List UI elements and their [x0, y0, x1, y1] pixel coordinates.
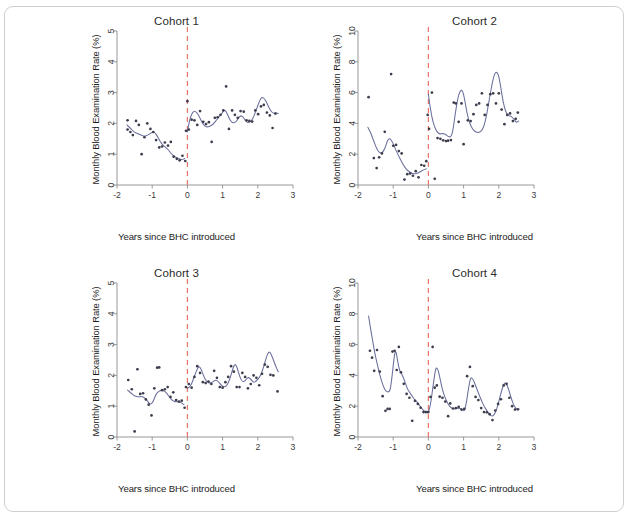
data-point — [214, 117, 217, 120]
data-point — [224, 381, 227, 384]
data-point — [483, 114, 486, 117]
data-point — [233, 370, 236, 373]
data-point — [166, 386, 169, 389]
x-tick-label: -1 — [389, 442, 397, 452]
data-point — [397, 346, 400, 349]
data-point — [460, 102, 463, 105]
data-point — [371, 356, 374, 359]
data-point — [219, 113, 222, 116]
data-point — [486, 104, 489, 107]
data-point — [225, 85, 228, 88]
data-point — [390, 73, 393, 76]
y-tick-label: 4 — [106, 59, 116, 64]
data-point — [180, 399, 183, 402]
x-axis-label-cohort-4: Years since BHC introduced — [354, 483, 595, 494]
data-point — [272, 374, 275, 377]
data-point — [412, 174, 415, 177]
data-point — [419, 406, 422, 409]
data-point — [185, 386, 188, 389]
data-point — [150, 414, 153, 417]
y-tick-label: 0 — [106, 434, 116, 439]
data-point — [429, 396, 432, 399]
data-point — [378, 156, 381, 159]
x-tick-label: -2 — [113, 190, 121, 200]
x-tick-label: 2 — [496, 442, 501, 452]
data-point — [252, 374, 255, 377]
panel-cohort-1: Cohort 1 Monthly Blood Examination Rate … — [5, 7, 314, 259]
data-point — [478, 102, 481, 105]
data-point — [491, 419, 494, 422]
panel-cohort-3: Cohort 3 Monthly Blood Examination Rate … — [5, 259, 314, 511]
y-tick-label: 2 — [347, 404, 357, 409]
data-point — [508, 396, 511, 399]
data-point — [242, 110, 245, 113]
data-point — [441, 396, 444, 399]
data-point — [236, 117, 239, 120]
data-point — [196, 124, 199, 127]
data-point — [416, 403, 419, 406]
data-point — [450, 139, 453, 142]
data-point — [514, 408, 517, 411]
data-point — [207, 380, 210, 383]
y-tick-label: 2 — [106, 121, 116, 126]
data-point — [167, 144, 170, 147]
data-point — [376, 349, 379, 352]
data-point — [503, 123, 506, 126]
y-tick-label: 2 — [106, 373, 116, 378]
y-tick-label: 4 — [347, 373, 357, 378]
data-point — [216, 377, 219, 380]
data-point — [178, 400, 181, 403]
x-tick-label: -1 — [148, 442, 156, 452]
data-point — [169, 396, 172, 399]
data-point — [161, 389, 164, 392]
x-tick-label: 0 — [185, 190, 190, 200]
x-tick-label: 1 — [220, 190, 225, 200]
data-point — [455, 407, 458, 410]
data-point — [230, 365, 233, 368]
data-point — [129, 131, 132, 134]
data-point — [262, 104, 265, 107]
y-tick-label: 1 — [106, 404, 116, 409]
data-point — [395, 369, 398, 372]
data-point — [457, 121, 460, 124]
data-point — [509, 112, 512, 115]
data-point — [426, 114, 429, 117]
data-point — [439, 137, 442, 140]
data-point — [471, 385, 474, 388]
data-point — [500, 398, 503, 401]
data-point — [161, 145, 164, 148]
data-point — [164, 388, 167, 391]
data-point — [231, 109, 234, 112]
data-point — [234, 113, 237, 116]
fit-line-post — [428, 368, 519, 416]
data-point — [149, 128, 152, 131]
fit-line-pre — [128, 390, 184, 404]
data-point — [511, 405, 514, 408]
data-point — [210, 383, 213, 386]
data-point — [266, 111, 269, 114]
data-point — [489, 93, 492, 96]
data-point — [131, 134, 134, 137]
x-tick-label: 2 — [255, 442, 260, 452]
data-point — [480, 407, 483, 410]
data-point — [137, 124, 140, 127]
data-point — [400, 152, 403, 155]
data-point — [449, 402, 452, 405]
data-point — [433, 386, 436, 389]
data-point — [375, 167, 378, 170]
x-tick-label: 0 — [185, 442, 190, 452]
data-point — [395, 144, 398, 147]
y-tick-label: 0 — [347, 182, 357, 187]
data-point — [472, 113, 475, 116]
data-point — [221, 386, 224, 389]
fit-line-post — [187, 352, 278, 388]
data-point — [497, 403, 500, 406]
data-point — [254, 109, 257, 112]
data-point — [170, 141, 173, 144]
panel-cohort-2: Cohort 2 Monthly Blood Examination Rate … — [314, 7, 623, 259]
data-point — [474, 396, 477, 399]
data-point — [417, 176, 420, 179]
data-point — [152, 131, 155, 134]
data-point — [436, 137, 439, 140]
x-axis-label-cohort-2: Years since BHC introduced — [354, 231, 595, 242]
